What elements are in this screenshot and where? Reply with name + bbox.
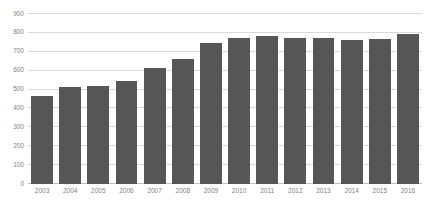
x-tick-label: 2014 bbox=[338, 188, 366, 195]
x-tick-label: 2004 bbox=[56, 188, 84, 195]
bar[interactable] bbox=[116, 81, 138, 184]
x-tick-label: 2007 bbox=[141, 188, 169, 195]
y-tick-label: 0 bbox=[0, 181, 24, 188]
plot-area bbox=[28, 14, 422, 184]
y-tick-label: 600 bbox=[0, 67, 24, 74]
bar[interactable] bbox=[228, 38, 250, 184]
x-tick-label: 2003 bbox=[28, 188, 56, 195]
bar[interactable] bbox=[369, 39, 391, 184]
bar[interactable] bbox=[341, 40, 363, 184]
bar[interactable] bbox=[284, 38, 306, 184]
bar-slot bbox=[394, 14, 422, 184]
bar-chart: 9008007006005004003002001000 20032004200… bbox=[0, 0, 428, 215]
bar-slot bbox=[225, 14, 253, 184]
bar-slot bbox=[309, 14, 337, 184]
bar[interactable] bbox=[313, 38, 335, 184]
x-tick-label: 2010 bbox=[225, 188, 253, 195]
bar-slot bbox=[197, 14, 225, 184]
x-tick-label: 2011 bbox=[253, 188, 281, 195]
x-tick-label: 2016 bbox=[394, 188, 422, 195]
x-tick-label: 2008 bbox=[169, 188, 197, 195]
bar-slot bbox=[141, 14, 169, 184]
y-axis-labels: 9008007006005004003002001000 bbox=[0, 14, 24, 184]
bar-slot bbox=[253, 14, 281, 184]
bars-group bbox=[28, 14, 422, 184]
x-tick-label: 2015 bbox=[366, 188, 394, 195]
bar-slot bbox=[28, 14, 56, 184]
y-tick-label: 300 bbox=[0, 124, 24, 131]
x-tick-label: 2012 bbox=[281, 188, 309, 195]
y-tick-label: 100 bbox=[0, 162, 24, 169]
bar[interactable] bbox=[59, 87, 81, 184]
x-tick-label: 2013 bbox=[309, 188, 337, 195]
bar-slot bbox=[84, 14, 112, 184]
bar[interactable] bbox=[200, 43, 222, 184]
y-tick-label: 700 bbox=[0, 49, 24, 56]
x-tick-label: 2006 bbox=[112, 188, 140, 195]
bar[interactable] bbox=[256, 36, 278, 184]
y-tick-label: 500 bbox=[0, 86, 24, 93]
bar[interactable] bbox=[172, 59, 194, 184]
x-axis-labels: 2003200420052006200720082009201020112012… bbox=[28, 186, 422, 202]
x-tick-label: 2005 bbox=[84, 188, 112, 195]
bar[interactable] bbox=[31, 96, 53, 184]
bar[interactable] bbox=[397, 34, 419, 184]
bar-slot bbox=[366, 14, 394, 184]
bar-slot bbox=[56, 14, 84, 184]
x-tick-label: 2009 bbox=[197, 188, 225, 195]
y-tick-label: 400 bbox=[0, 105, 24, 112]
bar-slot bbox=[112, 14, 140, 184]
y-tick-label: 200 bbox=[0, 143, 24, 150]
bar[interactable] bbox=[87, 86, 109, 184]
bar-slot bbox=[338, 14, 366, 184]
bar-slot bbox=[169, 14, 197, 184]
y-tick-label: 900 bbox=[0, 11, 24, 18]
bar[interactable] bbox=[144, 68, 166, 184]
bar-slot bbox=[281, 14, 309, 184]
y-tick-label: 800 bbox=[0, 30, 24, 37]
